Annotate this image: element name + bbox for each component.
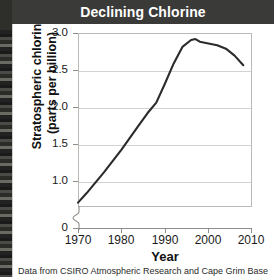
chlorine-series-line: [78, 33, 252, 207]
y-axis-title: Stratospheric chlorine (parts per billio…: [30, 0, 60, 173]
figure-caption: Data from CSIRO Atmospheric Research and…: [18, 266, 268, 277]
y-tick-label-0: 0: [42, 221, 68, 233]
y-axis-break-symbol: [70, 203, 88, 233]
axis-break-gap: [78, 208, 252, 228]
chart-figure: Declining Chlorine 3.0 2.5 2.0 1.5 1.0 0…: [0, 0, 274, 277]
y-axis-title-line1: Stratospheric chlorine: [30, 17, 44, 150]
y-axis-title-line2: (parts per billion): [45, 32, 59, 134]
y-tick-label-1.0: 1.0: [42, 174, 68, 186]
x-tick-label-1970: 1970: [56, 233, 100, 247]
x-tick-label-2010: 2010: [229, 233, 273, 247]
page-edge-artifact: [0, 0, 12, 277]
chart-title: Declining Chlorine: [12, 0, 274, 24]
x-axis-title: Year: [78, 249, 252, 264]
x-tick-label-1990: 1990: [143, 233, 187, 247]
x-tick-label-1980: 1980: [99, 233, 143, 247]
x-tick-label-2000: 2000: [186, 233, 230, 247]
page-edge-artifact-top: [0, 0, 12, 30]
